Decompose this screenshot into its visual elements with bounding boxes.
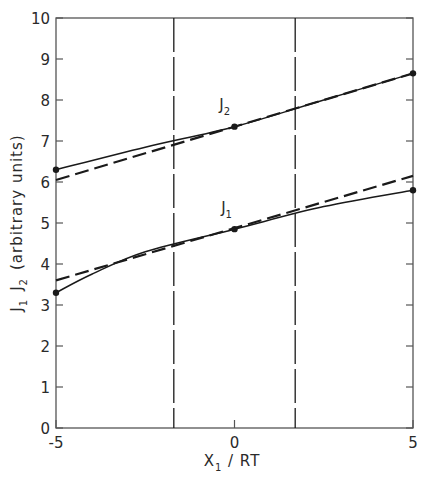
curve-labels: J2J1 xyxy=(218,96,232,220)
y-tick-label: 9 xyxy=(40,51,50,69)
y-tick-label: 8 xyxy=(40,92,50,110)
plot-frame xyxy=(56,18,413,428)
y-tick-label: 3 xyxy=(40,297,50,315)
data-point-marker xyxy=(53,290,59,296)
chart-canvas: 012345678910 -505 J2J1 X1 / RT J1J2(arbi… xyxy=(0,0,429,483)
solid-curve xyxy=(56,190,413,293)
curve-label: J2 xyxy=(218,96,230,117)
y-tick-label: 2 xyxy=(40,338,50,356)
data-point-marker xyxy=(410,187,416,193)
x-tick-label: 0 xyxy=(230,434,240,452)
curve-label: J1 xyxy=(220,199,232,220)
y-tick-label: 7 xyxy=(40,133,50,151)
y-tick-label: 5 xyxy=(40,215,50,233)
x-axis-ticks: -505 xyxy=(49,420,418,452)
y-tick-label: 6 xyxy=(40,174,50,192)
x-tick-label: 5 xyxy=(408,434,418,452)
data-series xyxy=(53,70,416,296)
x-tick-label: -5 xyxy=(49,434,64,452)
y-tick-label: 4 xyxy=(40,256,50,274)
y-tick-label: 1 xyxy=(40,379,50,397)
dashed-approximation-line xyxy=(56,176,413,281)
solid-curve xyxy=(56,73,413,169)
vertical-reference-lines xyxy=(174,18,295,428)
axes-box xyxy=(56,18,413,428)
y-axis-ticks: 012345678910 xyxy=(31,10,413,438)
y-axis-title: J1J2(arbitrary units) xyxy=(8,134,29,312)
y-tick-label: 10 xyxy=(31,10,50,28)
x-axis-title: X1 / RT xyxy=(204,452,261,473)
data-point-marker xyxy=(53,167,59,173)
